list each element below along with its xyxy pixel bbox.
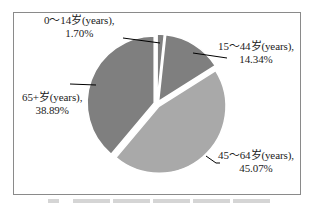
data-label-65plus: 65+岁(years), 38.89% bbox=[22, 91, 82, 117]
data-label-15-44: 15～44岁(years), 14.34% bbox=[218, 40, 294, 66]
data-label-category: 15～44岁(years), bbox=[218, 40, 294, 53]
data-label-value: 38.89% bbox=[22, 104, 82, 117]
data-label-value: 14.34% bbox=[218, 53, 294, 66]
data-label-category: 0～14岁(years), bbox=[44, 14, 115, 27]
figure-caption-illegible bbox=[48, 199, 270, 205]
data-label-value: 45.07% bbox=[218, 162, 294, 175]
data-label-category: 65+岁(years), bbox=[22, 91, 82, 104]
data-label-value: 1.70% bbox=[44, 27, 115, 40]
data-label-45-64: 45～64岁(years), 45.07% bbox=[218, 149, 294, 175]
data-label-category: 45～64岁(years), bbox=[218, 149, 294, 162]
data-label-0-14: 0～14岁(years), 1.70% bbox=[44, 14, 115, 40]
